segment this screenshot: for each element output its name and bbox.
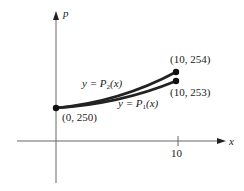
y-axis-label: p (62, 7, 69, 19)
point-0-250 (53, 105, 59, 111)
point-10-253 (173, 78, 179, 84)
y-axis-arrow-icon (53, 11, 59, 20)
point-label-0-250: (0, 250) (62, 111, 97, 124)
diagram-canvas: p x 10 (0, 250) (10, 254) (10, 253) y = … (0, 0, 244, 191)
point-10-254 (173, 69, 179, 75)
x-axis-label: x (228, 135, 234, 147)
point-label-10-254: (10, 254) (170, 53, 211, 66)
x-tick-label: 10 (171, 147, 183, 159)
curve-label-p1: y = P1(x) (117, 97, 159, 111)
x-axis-arrow-icon (217, 138, 226, 144)
point-label-10-253: (10, 253) (170, 86, 211, 99)
curve-label-p2: y = P2(x) (81, 77, 123, 91)
